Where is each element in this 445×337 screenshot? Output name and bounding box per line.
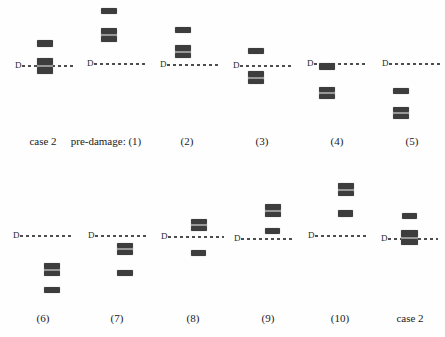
gel-band-diagram: Dcase 2Dpre-damage: (1)D(2)D(3)D(4)D(5)D… — [0, 0, 445, 337]
band-doublet-upper-segment — [401, 230, 418, 237]
band-single — [402, 213, 417, 219]
band-doublet-lower-segment — [401, 239, 418, 245]
panel-caption: case 2 — [396, 312, 423, 324]
d-marker-label: D — [381, 234, 388, 243]
panel-bottom-case2: Dcase 2 — [0, 0, 445, 337]
band-doublet — [401, 230, 418, 245]
